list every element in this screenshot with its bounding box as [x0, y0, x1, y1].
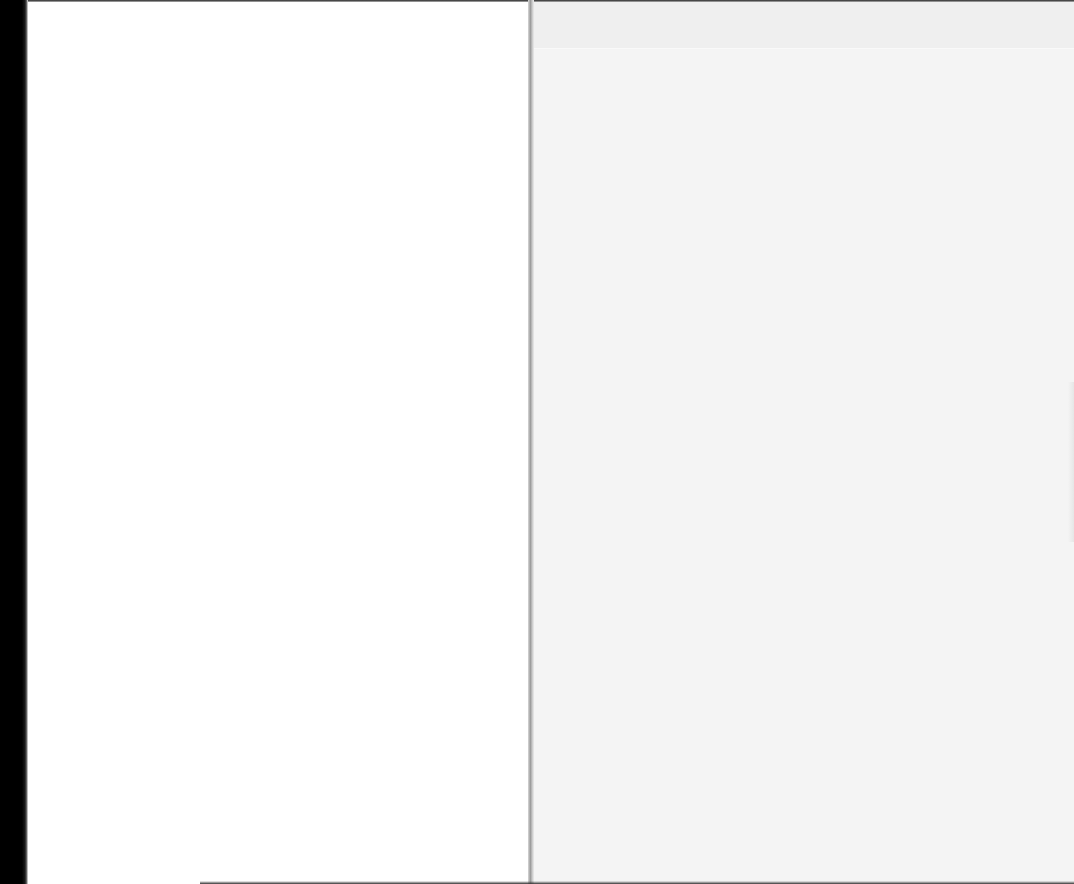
left-page [28, 2, 530, 882]
book-spread [0, 0, 1074, 884]
binding-edge [0, 0, 28, 884]
right-page-header-band [534, 2, 1074, 49]
right-page-edge [1068, 382, 1074, 542]
right-page [534, 2, 1074, 882]
